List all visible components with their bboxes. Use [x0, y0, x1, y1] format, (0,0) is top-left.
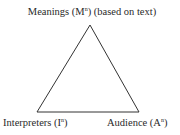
vertex-label-interpreters: Interpreters (In) — [3, 117, 68, 129]
triangle-outline — [37, 25, 139, 112]
vertex-label-audience: Audience (An) — [107, 117, 167, 129]
meanings-label-suffix: ) (based on text) — [88, 6, 157, 17]
audience-label-prefix: Audience (A — [107, 117, 161, 128]
vertex-label-meanings: Meanings (Mn) (based on text) — [0, 6, 180, 18]
interpreters-label-suffix: ) — [64, 117, 68, 128]
triangle-shape — [0, 0, 180, 135]
audience-label-suffix: ) — [164, 117, 168, 128]
interpreters-label-prefix: Interpreters (I — [3, 117, 61, 128]
meaning-triangle-diagram: Meanings (Mn) (based on text) Interprete… — [0, 0, 180, 135]
meanings-label-prefix: Meanings (M — [28, 6, 85, 17]
